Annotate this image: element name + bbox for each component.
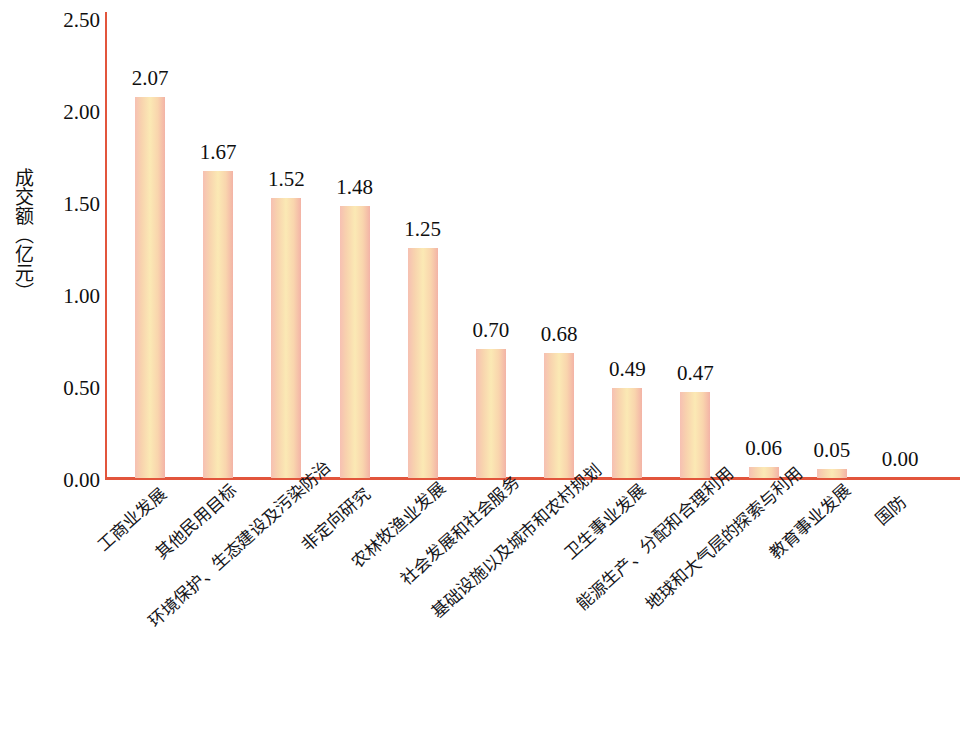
bar[interactable] xyxy=(612,388,642,478)
bar-value-label: 1.67 xyxy=(200,142,237,163)
bar[interactable] xyxy=(340,206,370,478)
bar-value-label: 1.25 xyxy=(404,219,441,240)
bar-chart: 成交额（亿元） 0.00 0.50 1.00 1.50 2.00 2.50 2.… xyxy=(0,0,965,752)
bar[interactable] xyxy=(135,97,165,478)
x-axis-category-labels: 工商业发展其他民用目标环境保护、生态建设及污染防治非定向研究农林牧渔业发展社会发… xyxy=(105,484,965,752)
bar-group: 0.06 xyxy=(728,12,800,478)
y-tick-label: 1.00 xyxy=(44,286,100,307)
y-tick-label: 0.50 xyxy=(44,378,100,399)
bar-group: 1.48 xyxy=(319,12,391,478)
bar-value-label: 1.52 xyxy=(268,169,305,190)
bar[interactable] xyxy=(476,349,506,478)
bar-value-label: 0.70 xyxy=(473,320,510,341)
bar[interactable] xyxy=(203,171,233,478)
bar-group: 1.52 xyxy=(250,12,322,478)
bar-value-label: 0.00 xyxy=(882,449,919,470)
bar-group: 0.49 xyxy=(591,12,663,478)
y-tick-label: 2.00 xyxy=(44,102,100,123)
y-axis-title: 成交额（亿元） xyxy=(4,168,34,301)
y-axis-tick-labels: 0.00 0.50 1.00 1.50 2.00 2.50 xyxy=(44,0,100,752)
bar[interactable] xyxy=(408,248,438,478)
y-tick-label: 0.00 xyxy=(44,470,100,491)
bar-value-label: 2.07 xyxy=(132,68,169,89)
bar-value-label: 0.68 xyxy=(541,324,578,345)
bar-value-label: 1.48 xyxy=(336,177,373,198)
y-tick-label: 1.50 xyxy=(44,194,100,215)
bar[interactable] xyxy=(749,467,779,478)
bar-group: 1.25 xyxy=(387,12,459,478)
bar-group: 0.68 xyxy=(523,12,595,478)
bar-group: 2.07 xyxy=(114,12,186,478)
bar-group: 0.00 xyxy=(864,12,936,478)
x-axis-category-label: 国防 xyxy=(872,493,910,530)
bar-value-label: 0.06 xyxy=(745,438,782,459)
bar-group: 0.05 xyxy=(796,12,868,478)
plot-area: 2.071.671.521.481.250.700.680.490.470.06… xyxy=(105,12,960,480)
x-axis-category-label: 社会发展和社会服务 xyxy=(397,472,523,588)
bar[interactable] xyxy=(271,198,301,478)
bar-value-label: 0.05 xyxy=(813,440,850,461)
bars-layer: 2.071.671.521.481.250.700.680.490.470.06… xyxy=(105,12,960,478)
y-tick-label: 2.50 xyxy=(44,10,100,31)
bar-group: 0.70 xyxy=(455,12,527,478)
bar[interactable] xyxy=(680,392,710,478)
bar[interactable] xyxy=(817,469,847,478)
bar-group: 1.67 xyxy=(182,12,254,478)
bar[interactable] xyxy=(544,353,574,478)
bar-value-label: 0.49 xyxy=(609,359,646,380)
bar-value-label: 0.47 xyxy=(677,363,714,384)
bar-group: 0.47 xyxy=(659,12,731,478)
